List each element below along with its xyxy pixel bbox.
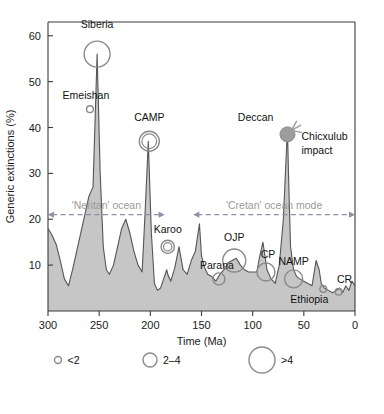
legend-label-2: >4: [281, 354, 293, 366]
event-label-karoo: Karoo: [154, 223, 182, 235]
marker-karoo-inner: [164, 243, 172, 251]
y-axis-title: Generic extinctions (%): [4, 110, 16, 224]
legend-label-1: 2–4: [163, 354, 181, 366]
y-tick-label-60: 60: [29, 30, 41, 42]
marker-emeishan[interactable]: [87, 106, 94, 113]
marker-camp-inner: [142, 134, 157, 149]
neritan-ocean-label: 'Neritan' ocean: [72, 199, 142, 211]
x-tick-label-200: 200: [141, 319, 159, 331]
x-tick-label-150: 150: [192, 319, 210, 331]
y-tick-label-10: 10: [29, 259, 41, 271]
event-label-cp: CP: [261, 248, 276, 260]
event-label-siberia: Siberia: [81, 18, 114, 30]
x-axis-title: Time (Ma): [177, 335, 227, 347]
y-tick-label-30: 30: [29, 167, 41, 179]
y-tick-label-40: 40: [29, 122, 41, 134]
cretan-ocean-arrowhead-right: [349, 211, 355, 217]
event-label-emeishan: Emeishan: [63, 89, 110, 101]
chart-canvas: 'Neritan' ocean'Cretan' ocean mode102030…: [0, 0, 384, 414]
event-label-namp: NAMP: [278, 255, 308, 267]
event-label-ethiopia: Ethiopia: [290, 293, 328, 305]
event-label-camp: CAMP: [134, 111, 164, 123]
event-label-chicxulub-impact: Chicxulub: [301, 130, 347, 142]
legend-label-0: <2: [68, 354, 80, 366]
cretan-ocean-label: 'Cretan' ocean mode: [226, 199, 322, 211]
y-tick-label-50: 50: [29, 76, 41, 88]
event-label-chicxulub-impact-line2: impact: [301, 144, 332, 156]
plot-area: 'Neritan' ocean'Cretan' ocean mode102030…: [4, 18, 358, 373]
neritan-ocean-arrowhead-left: [48, 211, 54, 217]
x-tick-label-250: 250: [90, 319, 108, 331]
x-tick-label-50: 50: [298, 319, 310, 331]
y-tick-label-20: 20: [29, 213, 41, 225]
legend-marker-1: [143, 353, 157, 367]
event-label-parana: Parana: [200, 259, 234, 271]
neritan-ocean-arrowhead-right: [159, 211, 165, 217]
event-label-deccan: Deccan: [238, 111, 274, 123]
extinction-timeline-figure: 'Neritan' ocean'Cretan' ocean mode102030…: [0, 0, 384, 414]
cretan-ocean-arrowhead-left: [193, 211, 199, 217]
event-label-cr: CR: [337, 273, 353, 285]
legend-marker-0: [55, 357, 62, 364]
event-label-ojp: OJP: [224, 231, 244, 243]
x-tick-label-0: 0: [352, 319, 358, 331]
x-tick-label-300: 300: [39, 319, 57, 331]
x-tick-label-100: 100: [243, 319, 261, 331]
legend-marker-2: [249, 347, 275, 373]
